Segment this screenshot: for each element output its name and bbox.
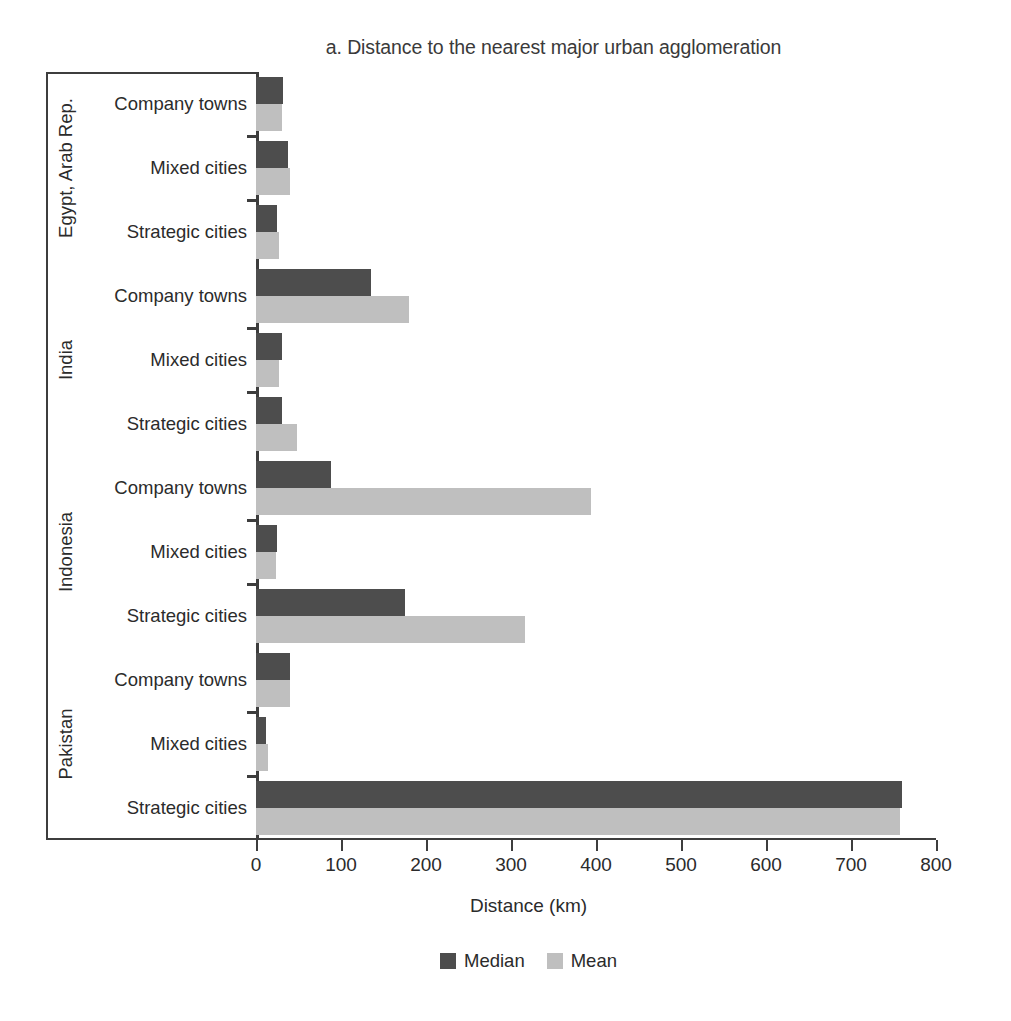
category-axis-label: Company towns (86, 456, 256, 520)
category-axis-label: Strategic cities (86, 776, 256, 840)
country-group: Egypt, Arab Rep.Company townsMixed citie… (46, 72, 256, 264)
value-tick-label: 700 (811, 854, 891, 876)
category-axis-label: Company towns (86, 72, 256, 136)
category-rows: Company townsMixed citiesStrategic citie… (86, 456, 256, 648)
category-axis-label: Strategic cities (86, 584, 256, 648)
value-tick-label: 600 (726, 854, 806, 876)
country-axis-label: Egypt, Arab Rep. (46, 72, 86, 264)
bar-mean (256, 296, 409, 323)
bar-median (256, 717, 266, 744)
category-rows: Company townsMixed citiesStrategic citie… (86, 72, 256, 264)
value-tick-label: 0 (216, 854, 296, 876)
bar-mean (256, 744, 268, 771)
bar-median (256, 461, 331, 488)
category-axis-label: Strategic cities (86, 392, 256, 456)
value-tick (681, 840, 683, 851)
bar-median (256, 397, 282, 424)
value-tick-label: 200 (386, 854, 466, 876)
country-axis-label: Pakistan (46, 648, 86, 840)
value-axis-ticks: 0100200300400500600700800 (256, 840, 936, 884)
bar-median (256, 653, 290, 680)
country-group: IndiaCompany townsMixed citiesStrategic … (46, 264, 256, 456)
bar-median (256, 333, 282, 360)
bar-mean (256, 104, 282, 131)
bar-mean (256, 232, 279, 259)
value-tick-label: 100 (301, 854, 381, 876)
bar-median (256, 205, 277, 232)
bar-median (256, 77, 283, 104)
value-tick (596, 840, 598, 851)
value-tick-label: 500 (641, 854, 721, 876)
legend-item: Mean (547, 950, 617, 972)
bars-layer (256, 72, 936, 840)
chart-title: a. Distance to the nearest major urban a… (0, 36, 1011, 59)
category-axis-label: Mixed cities (86, 328, 256, 392)
value-tick (936, 840, 938, 851)
legend-label: Mean (571, 950, 617, 972)
category-rows: Company townsMixed citiesStrategic citie… (86, 648, 256, 840)
bar-mean (256, 616, 525, 643)
chart-legend: MedianMean (0, 950, 1011, 972)
plot-area: Egypt, Arab Rep.Company townsMixed citie… (46, 72, 936, 840)
bar-median (256, 781, 902, 808)
bar-mean (256, 424, 297, 451)
bar-median (256, 589, 405, 616)
value-tick (511, 840, 513, 851)
value-tick (341, 840, 343, 851)
bar-median (256, 269, 371, 296)
x-axis-title: Distance (km) (0, 895, 1011, 917)
category-rows: Company townsMixed citiesStrategic citie… (86, 264, 256, 456)
bar-median (256, 141, 288, 168)
bar-mean (256, 488, 591, 515)
legend-swatch (440, 953, 456, 969)
bar-mean (256, 552, 276, 579)
value-tick-label: 800 (896, 854, 976, 876)
bar-mean (256, 360, 279, 387)
category-axis-label: Strategic cities (86, 200, 256, 264)
category-axis-label: Company towns (86, 648, 256, 712)
category-axis-label: Mixed cities (86, 136, 256, 200)
value-tick (851, 840, 853, 851)
bar-mean (256, 808, 900, 835)
legend-swatch (547, 953, 563, 969)
legend-label: Median (464, 950, 525, 972)
value-tick-label: 300 (471, 854, 551, 876)
value-tick (766, 840, 768, 851)
value-tick-label: 400 (556, 854, 636, 876)
value-tick (256, 840, 258, 851)
bar-mean (256, 680, 290, 707)
category-axis-label: Mixed cities (86, 520, 256, 584)
country-axis-label: India (46, 264, 86, 456)
bar-median (256, 525, 277, 552)
category-axis-label: Mixed cities (86, 712, 256, 776)
country-axis-label: Indonesia (46, 456, 86, 648)
value-tick (426, 840, 428, 851)
bar-mean (256, 168, 290, 195)
country-group: PakistanCompany townsMixed citiesStrateg… (46, 648, 256, 840)
legend-item: Median (440, 950, 525, 972)
category-axis-label: Company towns (86, 264, 256, 328)
country-group: IndonesiaCompany townsMixed citiesStrate… (46, 456, 256, 648)
